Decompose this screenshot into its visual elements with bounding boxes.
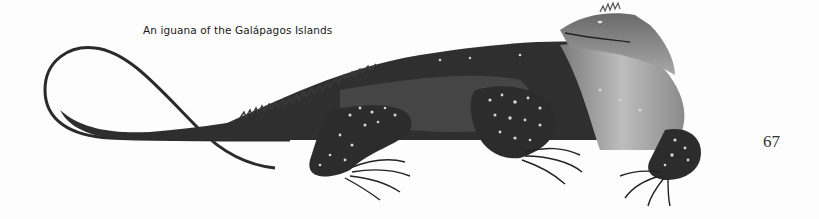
page-number: 67 (763, 132, 780, 152)
book-page: An iguana of the Galápagos Islands 67 (0, 0, 819, 219)
hind-leg (309, 105, 411, 200)
eye (597, 20, 603, 24)
figure-caption: An iguana of the Galápagos Islands (143, 24, 332, 36)
iguana-illustration (0, 0, 819, 219)
